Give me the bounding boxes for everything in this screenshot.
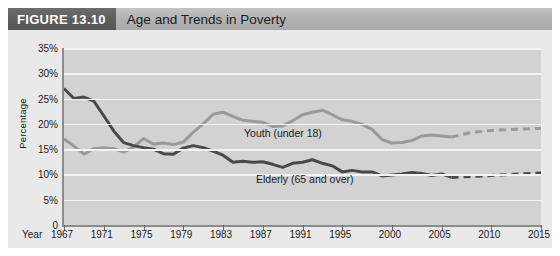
x-axis-title: Year (22, 229, 42, 240)
x-axis-tick-label: 1975 (130, 229, 152, 240)
gridline (64, 149, 541, 151)
x-axis-tick-label: 2010 (478, 229, 500, 240)
x-axis-tick-label: 2015 (528, 229, 550, 240)
x-axis-tick-label: 2005 (429, 229, 451, 240)
series-label-elderly: Elderly (65 and over) (256, 173, 353, 185)
series-projection-youth (452, 128, 541, 137)
figure-body-panel: Percentage 05%10%15%20%25%30%35% 1967197… (8, 30, 552, 248)
x-axis-tick-label: 1971 (91, 229, 113, 240)
gridline (64, 48, 541, 50)
y-axis-tick-label: 5% (24, 194, 58, 205)
y-axis-tick-label: 35% (24, 43, 58, 54)
gridline (64, 73, 541, 75)
gridline (64, 200, 541, 202)
y-axis-tick-label: 25% (24, 93, 58, 104)
y-axis-tick-label: 20% (24, 118, 58, 129)
x-axis-tick-label: 1991 (289, 229, 311, 240)
figure-number: FIGURE 13.10 (8, 8, 116, 30)
x-axis-tick-label: 1987 (250, 229, 272, 240)
x-axis-tick-label: 1967 (51, 229, 73, 240)
figure-header-bar: FIGURE 13.10 Age and Trends in Poverty (8, 8, 552, 30)
series-label-youth: Youth (under 18) (244, 127, 322, 139)
x-axis-tick-labels: 1967197119751979198319871991199520002005… (62, 229, 539, 245)
y-axis-tick-labels: 05%10%15%20%25%30%35% (20, 30, 58, 248)
y-axis-tick-label: 10% (24, 169, 58, 180)
y-axis-tick-label: 30% (24, 68, 58, 79)
figure-container: FIGURE 13.10 Age and Trends in Poverty P… (0, 0, 560, 256)
x-axis-tick-label: 2000 (379, 229, 401, 240)
chart: Percentage 05%10%15%20%25%30%35% 1967197… (8, 30, 552, 248)
gridline (64, 124, 541, 126)
x-axis-tick-label: 1979 (170, 229, 192, 240)
x-axis-tick-label: 1995 (329, 229, 351, 240)
figure-title: Age and Trends in Poverty (116, 8, 286, 30)
x-axis-tick-label: 1983 (210, 229, 232, 240)
y-axis-tick-label: 15% (24, 144, 58, 155)
gridline (64, 99, 541, 101)
